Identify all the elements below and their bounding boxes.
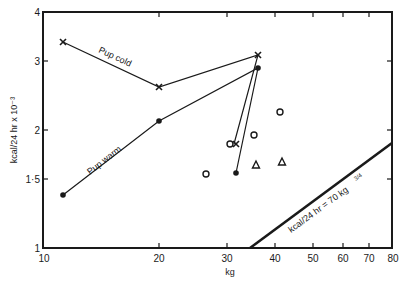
x-axis-ticks <box>159 12 369 248</box>
filled-circle-marker-icon <box>156 118 162 124</box>
open-circle-marker-icon <box>203 171 209 177</box>
filled-circle-marker-icon <box>60 192 66 198</box>
y-tick-label: 2 <box>34 125 40 136</box>
x-axis-label: kg <box>225 267 235 277</box>
y-tick-label: 1·5 <box>26 174 41 185</box>
y-tick-label: 4 <box>34 7 40 18</box>
x-marker-icon <box>156 84 162 90</box>
regression-label: kcal/24 hr = 70 kg 3/4 <box>286 172 367 235</box>
x-tick-label: 80 <box>387 253 399 264</box>
x-tick-label: 20 <box>153 253 165 264</box>
x-tick-label: 50 <box>307 253 319 264</box>
pup-cold-line <box>63 42 258 144</box>
open-circle-marker-icon <box>277 109 283 115</box>
triangle-marker-icon <box>279 158 286 165</box>
filled-circle-marker-icon <box>233 170 239 176</box>
x-tick-label: 10 <box>38 253 50 264</box>
y-tick-labels: 1 1·5 2 3 4 <box>26 7 41 254</box>
y-axis-label: kcal/24 hr x 10⁻³ <box>9 97 19 164</box>
chart: 10 20 30 40 50 60 70 80 1 1·5 2 3 4 kg k… <box>0 0 408 284</box>
filled-circle-marker-icon <box>255 65 261 71</box>
triangle-markers <box>253 158 286 168</box>
open-circle-marker-icon <box>227 141 233 147</box>
triangle-marker-icon <box>253 161 260 168</box>
x-marker-icon <box>233 141 239 147</box>
x-tick-label: 60 <box>337 253 349 264</box>
y-tick-label: 1 <box>34 243 40 254</box>
plot-frame <box>43 12 392 248</box>
regression-label-text: kcal/24 hr = 70 kg <box>286 185 350 235</box>
y-tick-label: 3 <box>34 56 40 67</box>
pup-cold-label: Pup cold <box>97 45 133 69</box>
regression-label-exponent: 3/4 <box>353 172 364 182</box>
pup-warm-label: Pup warm <box>85 144 123 177</box>
x-tick-label: 70 <box>363 253 375 264</box>
x-tick-labels: 10 20 30 40 50 60 70 80 <box>38 253 399 264</box>
x-tick-label: 40 <box>269 253 281 264</box>
x-marker-icon <box>60 39 66 45</box>
x-tick-label: 30 <box>221 253 233 264</box>
open-circle-marker-icon <box>251 132 257 138</box>
open-circle-markers <box>203 109 283 177</box>
regression-line <box>250 143 392 248</box>
